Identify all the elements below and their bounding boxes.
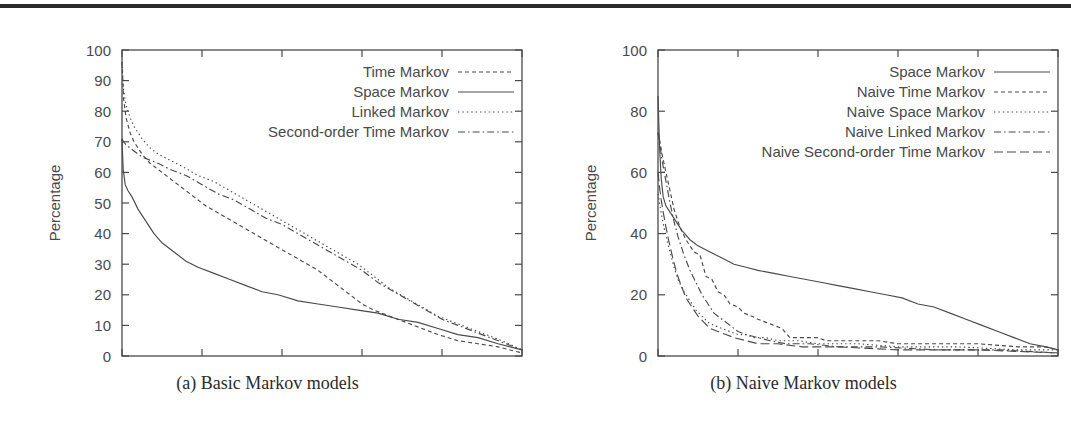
series-line [658,133,1058,353]
y-axis-tick-label: 90 [94,72,111,89]
plot-frame [122,50,522,356]
y-axis-tick-label: 20 [630,286,647,303]
x-axis-tick-label: 0.8 [432,364,453,368]
x-axis-tick-label: 0 [654,364,662,368]
legend-label: Space Markov [889,63,985,80]
y-axis-tick-label: 80 [94,103,111,120]
series-line [122,62,522,353]
series-line [658,133,1058,350]
chart-naive-markov-models: 02040608010000.20.40.60.81ProbabilityPer… [536,18,1071,368]
y-axis-tick-label: 80 [630,103,647,120]
y-axis-tick-label: 100 [622,42,647,59]
figure-basic-markov-models: 010203040506070809010000.20.40.60.81Prob… [0,18,535,439]
legend-label: Time Markov [363,63,450,80]
y-axis-tick-label: 30 [94,256,111,273]
y-axis-label: Percentage [46,165,63,242]
x-axis-tick-label: 0.8 [968,364,989,368]
y-axis-tick-label: 20 [94,286,111,303]
x-axis-tick-label: 0 [118,364,126,368]
figure-naive-markov-models: 02040608010000.20.40.60.81ProbabilityPer… [536,18,1071,439]
y-axis-tick-label: 0 [639,348,647,365]
y-axis-tick-label: 70 [94,133,111,150]
series-line [122,139,522,350]
scan-line-artifact [0,4,1071,8]
y-axis-tick-label: 100 [86,42,111,59]
figure-caption-b: (b) Naive Markov models [536,373,1071,394]
legend-label: Second-order Time Markov [268,123,449,140]
x-axis-tick-label: 0.4 [272,364,293,368]
x-axis-tick-label: 0.6 [352,364,373,368]
x-axis-tick-label: 1 [1054,364,1062,368]
y-axis-tick-label: 50 [94,195,111,212]
legend-label: Naive Space Markov [847,103,986,120]
x-axis-tick-label: 0.4 [808,364,829,368]
y-axis-tick-label: 10 [94,317,111,334]
x-axis-tick-label: 0.6 [888,364,909,368]
chart-basic-markov-models: 010203040506070809010000.20.40.60.81Prob… [0,18,535,368]
legend-label: Naive Second-order Time Markov [762,143,986,160]
series-line [122,139,522,350]
y-axis-tick-label: 0 [103,348,111,365]
legend-label: Naive Time Markov [857,83,986,100]
y-axis-label: Percentage [582,165,599,242]
y-axis-tick-label: 60 [94,164,111,181]
series-line [122,62,522,350]
x-axis-tick-label: 0.2 [192,364,213,368]
figure-caption-a: (a) Basic Markov models [0,373,535,394]
y-axis-tick-label: 40 [94,225,111,242]
legend-label: Linked Markov [351,103,449,120]
y-axis-tick-label: 60 [630,164,647,181]
series-line [658,194,1058,350]
legend-label: Space Markov [353,83,449,100]
series-line [658,172,1058,353]
x-axis-tick-label: 1 [518,364,526,368]
x-axis-tick-label: 0.2 [728,364,749,368]
y-axis-tick-label: 40 [630,225,647,242]
legend-label: Naive Linked Markov [845,123,986,140]
